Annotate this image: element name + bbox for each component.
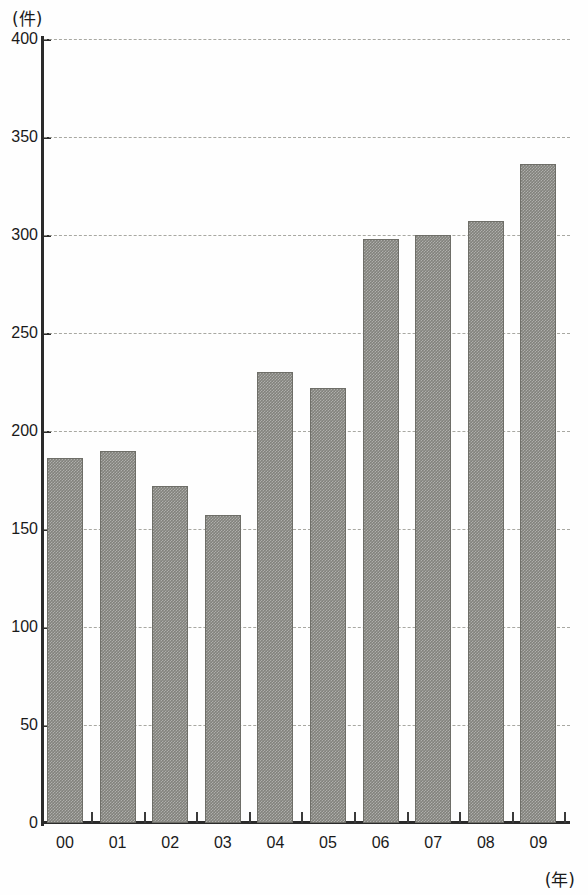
- y-tick-label-0: 0: [0, 815, 38, 831]
- y-tick-label-100: 100: [0, 619, 38, 635]
- x-tick-mark-07: [459, 812, 461, 823]
- bar-01: [100, 451, 136, 823]
- bar-chart: (件) 050100150200250300350400 00010203040…: [0, 0, 588, 895]
- x-tick-mark-06: [407, 812, 409, 823]
- x-tick-mark-09: [564, 812, 566, 823]
- bar-08: [468, 221, 504, 823]
- x-tick-label-01: 01: [98, 834, 138, 852]
- bar-06: [363, 239, 399, 823]
- y-tick-label-400: 400: [0, 31, 38, 47]
- y-tick-label-350: 350: [0, 129, 38, 145]
- x-tick-label-04: 04: [255, 834, 295, 852]
- x-axis-unit-label: (年): [545, 866, 575, 891]
- plot-area: [44, 39, 570, 823]
- bar-04: [257, 372, 293, 823]
- bar-05: [310, 388, 346, 823]
- y-tick-label-150: 150: [0, 521, 38, 537]
- x-tick-mark-02: [196, 812, 198, 823]
- y-tick-label-300: 300: [0, 227, 38, 243]
- x-tick-mark-00: [91, 812, 93, 823]
- y-tick-label-250: 250: [0, 325, 38, 341]
- x-tick-label-03: 03: [203, 834, 243, 852]
- bar-03: [205, 515, 241, 823]
- x-tick-mark-01: [144, 812, 146, 823]
- bar-02: [152, 486, 188, 823]
- x-tick-mark-03: [249, 812, 251, 823]
- x-tick-label-05: 05: [308, 834, 348, 852]
- x-tick-label-07: 07: [413, 834, 453, 852]
- x-tick-label-00: 00: [45, 834, 85, 852]
- x-tick-label-02: 02: [150, 834, 190, 852]
- bar-09: [520, 164, 556, 823]
- x-tick-mark-04: [301, 812, 303, 823]
- x-tick-label-06: 06: [361, 834, 401, 852]
- x-tick-mark-08: [512, 812, 514, 823]
- x-tick-label-08: 08: [466, 834, 506, 852]
- bar-00: [47, 458, 83, 823]
- x-tick-mark-05: [354, 812, 356, 823]
- y-axis-unit-label: (件): [12, 5, 42, 30]
- gridline-400: [44, 39, 570, 40]
- y-tick-label-50: 50: [0, 717, 38, 733]
- bar-07: [415, 235, 451, 823]
- x-tick-label-09: 09: [518, 834, 558, 852]
- gridline-350: [44, 137, 570, 138]
- y-tick-label-200: 200: [0, 423, 38, 439]
